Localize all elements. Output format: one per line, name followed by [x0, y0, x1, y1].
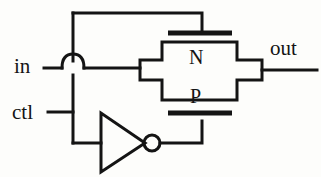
device-label-nmos: N — [189, 47, 203, 67]
wire-inverter-to-pmos-gate — [160, 121, 202, 143]
inverter-triangle — [101, 113, 145, 172]
schematic-canvas: in ctl out N P — [0, 0, 321, 177]
port-label-ctl: ctl — [12, 102, 33, 123]
circuit-schematic — [0, 0, 321, 177]
device-label-pmos: P — [190, 86, 201, 106]
port-label-out: out — [270, 38, 297, 59]
port-label-in: in — [14, 56, 30, 77]
wire-ctl-to-nmos-gate — [73, 13, 202, 32]
